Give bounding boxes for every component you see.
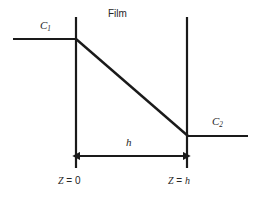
left-boundary-equals: =	[64, 175, 75, 186]
right-boundary-axis-label: Z = h	[168, 176, 190, 186]
film-concentration-diagram: Film C1 C2 h Z = 0 Z = h	[0, 0, 258, 197]
left-boundary-axis-label: Z = 0	[58, 176, 81, 186]
right-boundary-value: h	[185, 175, 190, 186]
c1-subscript: 1	[47, 25, 51, 33]
diagram-canvas	[0, 0, 258, 197]
film-thickness-label: h	[126, 137, 132, 148]
c2-subscript: 2	[219, 121, 223, 129]
c1-concentration-label: C1	[40, 20, 51, 31]
right-boundary-equals: =	[174, 175, 185, 186]
c2-concentration-label: C2	[212, 116, 223, 127]
film-title-label: Film	[108, 9, 127, 19]
concentration-gradient-line	[76, 39, 188, 136]
left-boundary-value: 0	[75, 175, 81, 186]
